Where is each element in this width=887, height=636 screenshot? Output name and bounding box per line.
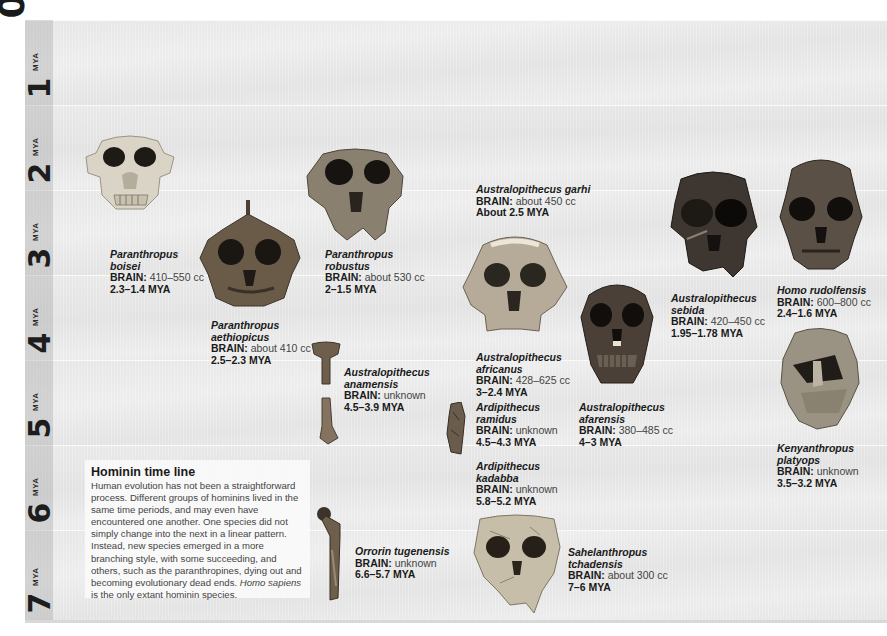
brain-value: about 300 cc	[608, 569, 668, 581]
caption-paranthropus-robustus: Paranthropus robustus BRAIN: about 530 c…	[325, 249, 425, 295]
axis-tick-unit: MYA	[31, 52, 40, 71]
brain-label: BRAIN:	[344, 389, 381, 401]
date-range: 7–6 MYA	[568, 582, 668, 594]
caption-homo-rudolfensis: Homo rudolfensis BRAIN: 600–800 cc 2.4–1…	[777, 285, 871, 320]
caption-australopithecus-anamensis: Australopithecus anamensis BRAIN: unknow…	[344, 367, 430, 413]
axis-tick-unit: MYA	[31, 567, 40, 586]
skull-homo-rudolfensis-icon	[778, 155, 864, 273]
hominin-timeline-figure: 0 1 MYA 2 MYA 3 MYA 4 MYA 5 MYA	[0, 0, 887, 636]
axis-tick-unit: MYA	[31, 392, 40, 411]
brain-value: unknown	[384, 389, 426, 401]
brain-size: BRAIN: 380–485 cc	[579, 425, 673, 437]
species-name: Australopithecus	[476, 352, 570, 364]
caption-australopithecus-sebida: Australopithecus sebida BRAIN: 420–450 c…	[671, 293, 765, 339]
caption-paranthropus-boisei: Paranthropus boisei BRAIN: 410–550 cc 2.…	[110, 249, 204, 295]
species-name: Paranthropus	[325, 249, 425, 261]
axis-tick-value: 6	[27, 500, 53, 526]
bone-ardipithecus-ramidus-icon	[445, 402, 467, 456]
brain-label: BRAIN:	[476, 424, 513, 436]
brain-size: BRAIN: about 410 cc	[211, 343, 311, 355]
caption-orrorin-tugenensis: Orrorin tugenensis BRAIN: unknown 6.6–5.…	[355, 546, 450, 581]
brain-value: 600–800 cc	[817, 296, 871, 308]
brain-value: about 530 cc	[365, 271, 425, 283]
date-range: 4.5–4.3 MYA	[476, 437, 558, 449]
axis-tick-2: 2 MYA	[25, 105, 53, 190]
brain-value: unknown	[516, 424, 558, 436]
axis-tick-3: 3 MYA	[25, 190, 53, 275]
skull-paranthropus-boisei-icon	[84, 133, 176, 213]
brain-size: BRAIN: 420–450 cc	[671, 316, 765, 328]
axis-tick-1: 1 MYA	[25, 20, 53, 105]
species-name: Ardipithecus	[476, 461, 558, 473]
date-range: 4–3 MYA	[579, 437, 673, 449]
brain-label: BRAIN:	[777, 465, 814, 477]
skull-sahelanthropus-tchadensis-icon	[470, 513, 562, 617]
axis-zero-marker: 0	[0, 0, 26, 20]
brain-size: BRAIN: about 300 cc	[568, 570, 668, 582]
info-box-text: Human evolution has not been a straightf…	[91, 480, 304, 601]
species-name: Australopithecus	[579, 402, 673, 414]
brain-label: BRAIN:	[671, 315, 708, 327]
axis-tick-value: 3	[27, 245, 53, 271]
brain-label: BRAIN:	[211, 342, 248, 354]
caption-australopithecus-africanus: Australopithecus africanus BRAIN: 428–62…	[476, 352, 570, 398]
caption-paranthropus-aethiopicus: Paranthropus aethiopicus BRAIN: about 41…	[211, 320, 311, 366]
brain-size: BRAIN: unknown	[344, 390, 430, 402]
bone-orrorin-tugenensis-icon	[316, 506, 348, 602]
axis-tick-unit: MYA	[31, 477, 40, 496]
axis-tick-unit: MYA	[31, 137, 40, 156]
brain-value: unknown	[817, 465, 859, 477]
date-range: 3–2.4 MYA	[476, 387, 570, 399]
info-box-title: Hominin time line	[91, 465, 304, 479]
brain-size: BRAIN: unknown	[476, 484, 558, 496]
brain-label: BRAIN:	[579, 424, 616, 436]
skull-australopithecus-africanus-icon	[461, 231, 569, 335]
date-range: 4.5–3.9 MYA	[344, 402, 430, 414]
brain-size: BRAIN: about 530 cc	[325, 272, 425, 284]
brain-label: BRAIN:	[568, 569, 605, 581]
skull-australopithecus-sebida-icon	[667, 167, 759, 279]
axis-tick-value: 7	[27, 590, 53, 616]
skull-kenyanthropus-platyops-icon	[777, 325, 861, 431]
bone-australopithecus-anamensis-icon	[308, 340, 344, 446]
axis-zero-label: 0	[0, 0, 26, 20]
axis-tick-unit: MYA	[31, 307, 40, 326]
brain-size: BRAIN: 410–550 cc	[110, 272, 204, 284]
axis-tick-4: 4 MYA	[25, 275, 53, 360]
axis-tick-value: 1	[27, 75, 53, 101]
info-text-end: is the only extant hominin species.	[91, 589, 237, 600]
brain-label: BRAIN:	[777, 296, 814, 308]
axis-tick-7: 7 MYA	[25, 530, 53, 620]
date-range: 5.8–5.2 MYA	[476, 496, 558, 508]
brain-label: BRAIN:	[355, 557, 392, 569]
species-name: Paranthropus	[211, 320, 311, 332]
species-name: Australopithecus	[344, 367, 430, 379]
axis-tick-value: 5	[27, 415, 53, 441]
caption-ardipithecus-kadabba: Ardipithecus kadabba BRAIN: unknown 5.8–…	[476, 461, 558, 507]
brain-value: about 450 cc	[516, 195, 576, 207]
caption-australopithecus-garhi: Australopithecus garhi BRAIN: about 450 …	[476, 184, 590, 219]
axis-tick-unit: MYA	[31, 222, 40, 241]
skull-australopithecus-afarensis-icon	[577, 277, 657, 387]
axis-tick-6: 6 MYA	[25, 445, 53, 530]
skull-paranthropus-robustus-icon	[303, 146, 409, 242]
brain-value: unknown	[516, 483, 558, 495]
brain-label: BRAIN:	[110, 271, 147, 283]
species-name: Sahelanthropus	[568, 547, 668, 559]
brain-value: about 410 cc	[251, 342, 311, 354]
brain-size: BRAIN: unknown	[476, 425, 558, 437]
skull-paranthropus-aethiopicus-icon	[198, 200, 304, 308]
brain-value: 410–550 cc	[150, 271, 204, 283]
caption-australopithecus-afarensis: Australopithecus afarensis BRAIN: 380–48…	[579, 402, 673, 448]
species-name: Kenyanthropus	[777, 443, 859, 455]
brain-value: 380–485 cc	[619, 424, 673, 436]
species-name: Paranthropus	[110, 249, 204, 261]
date-range: 3.5–3.2 MYA	[777, 478, 859, 490]
brain-label: BRAIN:	[476, 374, 513, 386]
date-range: 2.5–2.3 MYA	[211, 355, 311, 367]
date-range: 2–1.5 MYA	[325, 284, 425, 296]
brain-label: BRAIN:	[476, 195, 513, 207]
date-range: 6.6–5.7 MYA	[355, 569, 450, 581]
species-name: Ardipithecus	[476, 402, 558, 414]
date-range: 2.3–1.4 MYA	[110, 284, 204, 296]
